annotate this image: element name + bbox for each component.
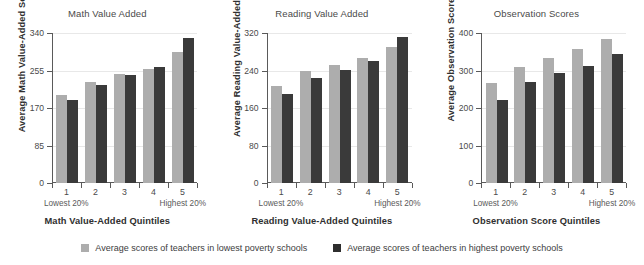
bar (125, 75, 136, 183)
panel-title: Math Value Added (0, 8, 215, 19)
bar-group (383, 33, 412, 183)
bar-group (354, 33, 383, 183)
highest-quintile-label: Highest 20% (589, 199, 635, 208)
bar (311, 78, 322, 183)
x-tick (52, 183, 53, 188)
x-tick-label: 4 (151, 187, 156, 197)
bar (96, 85, 107, 183)
panel-title: Observation Scores (429, 8, 644, 19)
x-tick (383, 183, 384, 188)
x-tick (481, 183, 482, 188)
x-tick (597, 183, 598, 188)
x-tick (267, 183, 268, 188)
x-tick-label: 3 (551, 187, 556, 197)
bar-group (482, 33, 511, 183)
bar (67, 100, 78, 183)
bar (386, 47, 397, 183)
y-tick-label: 255 (30, 66, 44, 76)
bar (486, 83, 497, 184)
y-tick-label: 0 (254, 178, 259, 188)
y-tick-label: 170 (30, 103, 44, 113)
bar-group (82, 33, 111, 183)
x-tick (568, 183, 569, 188)
x-axis-label: Observation Score Quintiles (429, 216, 644, 226)
bar (601, 39, 612, 183)
x-tick (325, 183, 326, 188)
y-axis-label: Average Observation Scores (446, 0, 456, 137)
bar (368, 61, 379, 183)
x-tick-label: 3 (337, 187, 342, 197)
x-tick-label: 1 (64, 187, 69, 197)
y-tick-label: 80 (249, 141, 259, 151)
x-tick-label: 5 (180, 187, 185, 197)
bar-group (268, 33, 297, 183)
panel-title: Reading Value Added (215, 8, 430, 19)
y-tick-label: 0 (39, 178, 44, 188)
bar (397, 37, 408, 183)
plot-area: 080160240320 (267, 33, 412, 183)
y-tick-label: 400 (459, 28, 473, 38)
y-tick-label: 100 (459, 141, 473, 151)
legend-item: Average scores of teachers in highest po… (333, 243, 562, 253)
y-tick-label: 340 (30, 28, 44, 38)
x-ticks: 12345 (52, 183, 197, 196)
bar (154, 67, 165, 183)
x-tick (354, 183, 355, 188)
bar (329, 65, 340, 183)
bar (85, 82, 96, 183)
lowest-quintile-label: Lowest 20% (44, 199, 89, 208)
y-axis-label: Average Reading Value-Added Score (232, 0, 242, 137)
x-tick-label: 3 (122, 187, 127, 197)
x-tick-label: 4 (366, 187, 371, 197)
bar-group (597, 33, 626, 183)
x-tick-label: 5 (395, 187, 400, 197)
bar-group (511, 33, 540, 183)
x-axis-label: Reading Value-Added Quintiles (215, 216, 430, 226)
chart-panels: Math Value AddedAverage Math Value-Added… (0, 0, 644, 237)
bar (172, 52, 183, 183)
x-tick (110, 183, 111, 188)
bar-group (540, 33, 569, 183)
bar (543, 58, 554, 183)
y-tick-label: 160 (244, 103, 258, 113)
x-axis-label: Math Value-Added Quintiles (0, 216, 215, 226)
bar (340, 70, 351, 183)
bar (271, 86, 282, 183)
chart-legend: Average scores of teachers in lowest pov… (0, 243, 644, 253)
x-tick-label: 5 (609, 187, 614, 197)
x-tick (539, 183, 540, 188)
bar (583, 66, 594, 183)
plot-area: 085170255340 (52, 33, 197, 183)
highest-quintile-label: Highest 20% (374, 199, 420, 208)
x-tick (197, 183, 198, 188)
x-tick (510, 183, 511, 188)
quintile-end-labels: Lowest 20%Highest 20% (259, 199, 421, 208)
bar (497, 100, 508, 183)
x-tick-label: 4 (580, 187, 585, 197)
bar-groups (268, 33, 412, 183)
bar-group (325, 33, 354, 183)
chart-panel: Reading Value AddedAverage Reading Value… (215, 0, 430, 237)
bar (282, 94, 293, 183)
bar (612, 54, 623, 183)
bar (56, 95, 67, 183)
x-tick (139, 183, 140, 188)
x-ticks: 12345 (267, 183, 412, 196)
x-tick-label: 2 (522, 187, 527, 197)
y-tick-label: 85 (34, 141, 44, 151)
bar (572, 49, 583, 183)
bar (114, 74, 125, 183)
chart-panel: Math Value AddedAverage Math Value-Added… (0, 0, 215, 237)
plot-area: 0100200300400 (481, 33, 626, 183)
bar (143, 69, 154, 183)
x-tick (296, 183, 297, 188)
plot-frame: 085170255340 (52, 33, 197, 183)
x-tick (626, 183, 627, 188)
bar-group (168, 33, 197, 183)
bar (300, 71, 311, 183)
y-tick-label: 240 (244, 66, 258, 76)
legend-swatch-icon (81, 244, 89, 252)
x-tick-label: 1 (279, 187, 284, 197)
bar (183, 38, 194, 183)
legend-swatch-icon (333, 244, 341, 252)
